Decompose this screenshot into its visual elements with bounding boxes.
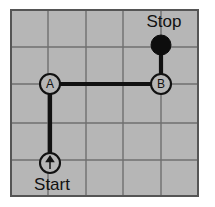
node-a[interactable]: A	[40, 74, 60, 94]
waypoint-letter: B	[157, 77, 165, 91]
stop-label: Stop	[147, 12, 182, 31]
waypoint-letter: A	[46, 77, 54, 91]
start-node[interactable]	[40, 153, 60, 173]
start-label: Start	[34, 175, 70, 194]
diagram-canvas: AB Stop Start	[0, 0, 215, 207]
route-grid-diagram: AB Stop Start	[0, 0, 215, 207]
stop-dot-icon	[151, 35, 171, 55]
grid-background	[11, 10, 198, 196]
node-b[interactable]: B	[151, 74, 171, 94]
stop-node[interactable]	[151, 35, 171, 55]
